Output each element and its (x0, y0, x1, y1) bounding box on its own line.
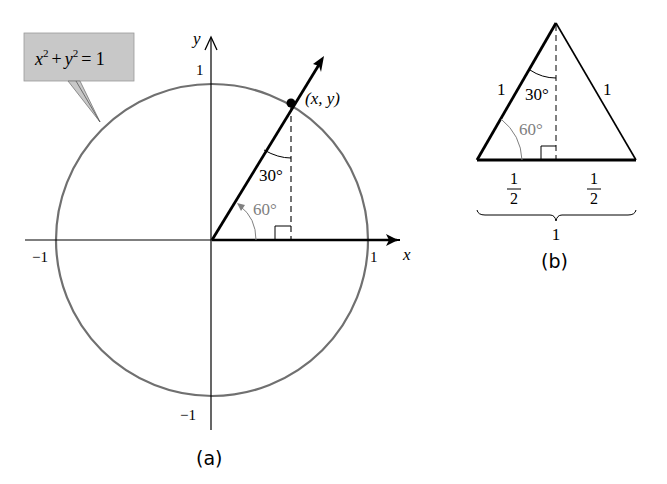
triangle-angle-60-label: 60° (519, 120, 543, 139)
svg-text:1: 1 (590, 170, 598, 187)
axis-y-label: y (191, 29, 201, 48)
svg-text:1: 1 (510, 170, 518, 187)
tick-y-neg: −1 (180, 407, 196, 423)
angle-30-label: 30° (259, 166, 283, 185)
caption-b: (b) (541, 250, 568, 272)
figure-canvas: 1 −1 −1 1 x y (x, y) 30° 60° x2+y2= 1 (a… (0, 0, 667, 484)
point-xy (287, 99, 296, 108)
figure-a: 1 −1 −1 1 x y (x, y) 30° 60° x2+y2= 1 (a… (24, 29, 411, 469)
svg-text:2: 2 (510, 190, 518, 207)
triangle-right-angle-marker (541, 146, 556, 160)
half-left-fraction: 1 2 (507, 170, 521, 207)
base-total-label: 1 (552, 225, 561, 244)
angle-30-arc (264, 150, 291, 158)
tick-x-neg: −1 (32, 249, 48, 265)
base-brace (477, 210, 636, 221)
figure-b: 1 1 30° 60° 1 2 1 2 1 (b) (477, 23, 636, 272)
tick-x-pos: 1 (370, 249, 378, 265)
caption-a: (a) (196, 447, 222, 469)
half-right-fraction: 1 2 (587, 170, 601, 207)
right-angle-marker (275, 226, 291, 240)
axis-x-label: x (402, 245, 411, 264)
triangle-angle-30-arc (530, 70, 556, 78)
triangle-angle-30-label: 30° (525, 85, 549, 104)
equation-callout: x2+y2= 1 (24, 32, 144, 122)
point-label: (x, y) (305, 89, 340, 108)
side-right-label: 1 (603, 80, 612, 99)
tick-y-pos: 1 (196, 62, 204, 78)
svg-text:2: 2 (590, 190, 598, 207)
triangle-right-side (556, 23, 636, 160)
side-left-label: 1 (497, 80, 506, 99)
angle-60-label: 60° (253, 200, 277, 219)
